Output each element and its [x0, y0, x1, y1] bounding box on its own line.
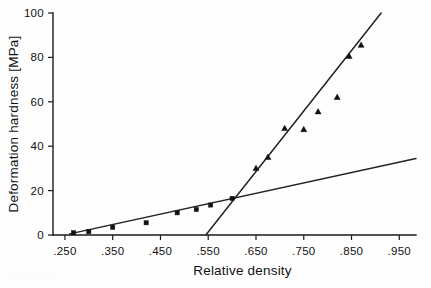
- data-point-square: [194, 207, 198, 211]
- data-point-square: [175, 211, 179, 215]
- data-point-square: [209, 203, 213, 207]
- steep-fit-line: [206, 13, 381, 235]
- x-tick-label: .950: [387, 245, 411, 257]
- chart-screenshot: 020406080100 .250.350.450.550.650.750.85…: [0, 0, 431, 288]
- y-tick-label: 40: [31, 140, 44, 152]
- y-tick-label: 100: [24, 7, 44, 19]
- x-tick-label: .450: [149, 245, 173, 257]
- deformation-hardness-chart: 020406080100 .250.350.450.550.650.750.85…: [0, 0, 431, 288]
- data-point-square: [230, 196, 234, 200]
- x-tick-label: .850: [340, 245, 364, 257]
- data-point-square: [111, 225, 115, 229]
- y-tick-label: 80: [31, 51, 44, 63]
- y-tick-label: 60: [31, 96, 44, 108]
- y-tick-label: 20: [31, 185, 44, 197]
- x-tick-label: .550: [196, 245, 220, 257]
- data-point-square: [71, 231, 75, 235]
- data-point-triangle: [358, 42, 364, 47]
- data-point-triangle: [334, 94, 340, 99]
- series-high-density-triangles: [253, 42, 364, 171]
- fit-lines-group: [70, 13, 416, 235]
- x-axis-title: Relative density: [193, 263, 292, 278]
- x-tick-label: .750: [292, 245, 316, 257]
- shallow-fit-line: [70, 158, 416, 233]
- data-point-triangle: [315, 109, 321, 114]
- scan-artifact: [10, 272, 56, 281]
- y-axis-ticks: [48, 13, 53, 235]
- data-point-square: [144, 221, 148, 225]
- x-axis-ticks: [65, 235, 399, 240]
- data-point-square: [87, 230, 91, 234]
- data-point-triangle: [301, 126, 307, 131]
- y-axis-tick-labels: 020406080100: [24, 7, 44, 241]
- data-point-triangle: [282, 125, 288, 130]
- x-tick-label: .650: [244, 245, 268, 257]
- x-axis-tick-labels: .250.350.450.550.650.750.850.950: [53, 245, 411, 257]
- y-tick-label: 0: [37, 229, 44, 241]
- y-axis-title: Deformation hardness [MPa]: [6, 35, 21, 212]
- x-tick-label: .250: [53, 245, 77, 257]
- x-tick-label: .350: [101, 245, 125, 257]
